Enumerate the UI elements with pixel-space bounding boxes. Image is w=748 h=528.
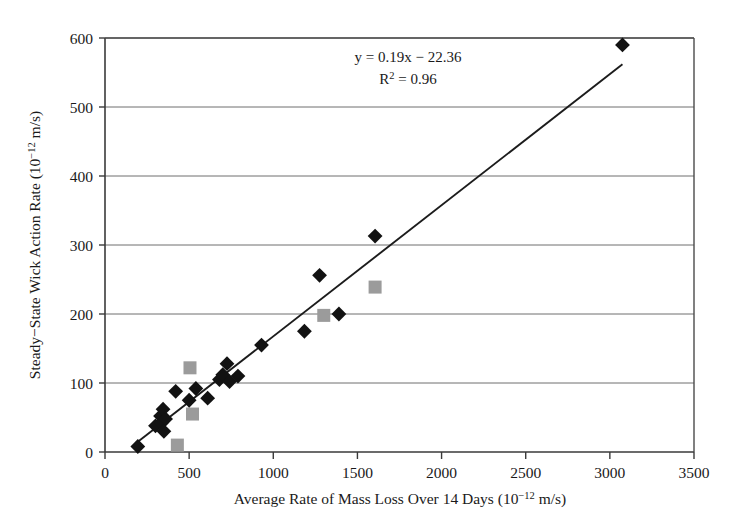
- x-axis-title-text: Average Rate of Mass Loss Over 14 Days (…: [234, 490, 567, 508]
- x-tick-label-1000: 1000: [258, 464, 289, 481]
- r-squared-label: R2 = 0.96: [379, 70, 437, 87]
- r-squared-base: R: [379, 71, 389, 87]
- y-tick-label-400: 400: [70, 168, 94, 185]
- y-tick-label-100: 100: [70, 375, 94, 392]
- x-axis-title-main: Average Rate of Mass Loss Over 14 Days (…: [234, 490, 519, 508]
- x-axis-title: Average Rate of Mass Loss Over 14 Days (…: [234, 490, 567, 508]
- x-tick-label-2500: 2500: [510, 464, 541, 481]
- x-axis-title-exponent: −12: [518, 490, 534, 501]
- y-tick-label-0: 0: [85, 444, 93, 461]
- y-tick-label-500: 500: [70, 99, 94, 116]
- chart-figure: 0100200300400500600 05001000150020002500…: [0, 0, 748, 528]
- x-tick-label-2000: 2000: [426, 464, 457, 481]
- data-point-square: [317, 309, 330, 322]
- x-axis-title-tail: m/s): [535, 490, 566, 508]
- y-tick-label-300: 300: [70, 237, 94, 254]
- data-point-square: [171, 439, 184, 452]
- y-tick-label-600: 600: [70, 30, 94, 47]
- scatter-plot: 0100200300400500600 05001000150020002500…: [0, 0, 748, 528]
- r-squared-value: = 0.96: [395, 71, 438, 87]
- equation-label: y = 0.19x − 22.36: [355, 49, 462, 65]
- y-tick-label-200: 200: [70, 306, 94, 323]
- y-axis-title-tail: m/s): [26, 111, 44, 142]
- chart-background: [0, 0, 748, 528]
- data-point-square: [186, 408, 199, 421]
- x-tick-label-500: 500: [178, 464, 202, 481]
- x-tick-label-3000: 3000: [594, 464, 625, 481]
- y-axis-title-exponent: −12: [26, 142, 37, 158]
- x-tick-label-3500: 3500: [679, 464, 710, 481]
- y-axis-title-main: Steady−State Wick Action Rate (10: [26, 158, 44, 379]
- x-tick-label-0: 0: [101, 464, 109, 481]
- data-point-square: [183, 361, 196, 374]
- data-point-square: [369, 281, 382, 294]
- x-tick-label-1500: 1500: [342, 464, 373, 481]
